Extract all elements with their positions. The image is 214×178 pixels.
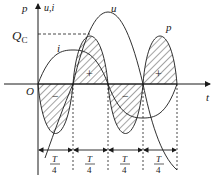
waveform-diagram: p u,i t O u i p QC − + − + T 4 T 4 T 4 T… <box>0 0 214 178</box>
sign-positive-2: + <box>155 67 162 81</box>
interval-label-2: T 4 <box>85 154 95 175</box>
p-axis-label: p <box>21 2 28 14</box>
interval-label-4: T 4 <box>154 154 164 175</box>
ui-axis-label: u,i <box>44 2 55 13</box>
svg-text:4: 4 <box>52 165 57 175</box>
i-curve-label: i <box>57 42 60 54</box>
u-curve-label: u <box>111 2 117 14</box>
sign-negative-2: − <box>122 89 129 103</box>
origin-label: O <box>26 85 34 97</box>
interval-labels: T 4 T 4 T 4 T 4 <box>50 154 164 175</box>
sign-negative-1: − <box>52 89 59 103</box>
svg-text:4: 4 <box>87 165 92 175</box>
svg-text:4: 4 <box>122 165 127 175</box>
t-axis-label: t <box>206 91 210 103</box>
svg-text:T: T <box>52 154 58 164</box>
interval-label-3: T 4 <box>120 154 130 175</box>
svg-text:4: 4 <box>156 165 161 175</box>
p-curve-label: p <box>165 21 172 33</box>
qc-label: QC <box>12 28 27 45</box>
svg-text:T: T <box>87 154 93 164</box>
svg-text:T: T <box>122 154 128 164</box>
sign-positive-1: + <box>86 67 93 81</box>
interval-label-1: T 4 <box>50 154 60 175</box>
svg-text:T: T <box>156 154 162 164</box>
